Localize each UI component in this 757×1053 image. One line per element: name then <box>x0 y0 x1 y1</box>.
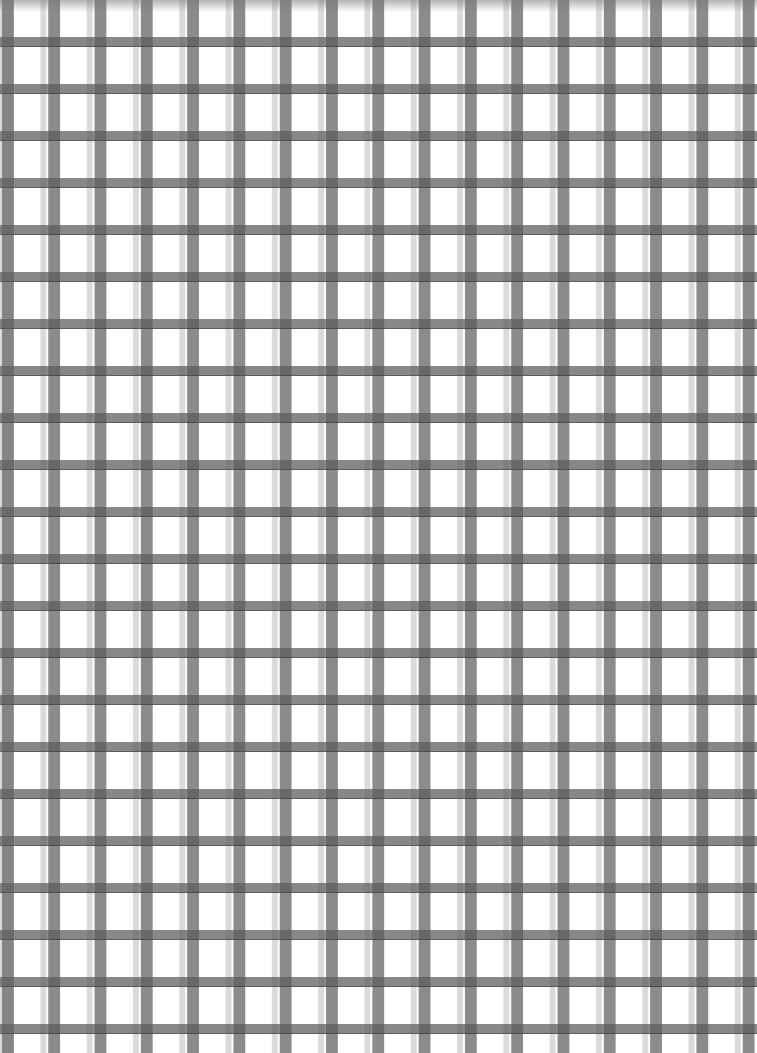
left-edge-wash <box>0 0 14 1053</box>
top-edge-wash <box>0 0 757 12</box>
horizontal-fine-lines <box>0 0 757 1053</box>
plaid-texture-canvas <box>0 0 757 1053</box>
